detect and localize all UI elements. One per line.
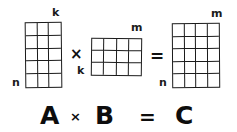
- equation-equals-operator: =: [139, 107, 155, 127]
- matrix-cell: [92, 51, 104, 63]
- matrix-b-row-dim-label: k: [77, 65, 84, 76]
- matrix-cell: [49, 23, 61, 36]
- matrix-cell: [129, 51, 141, 63]
- matrix-cell: [26, 36, 38, 49]
- matrix-cell: [208, 62, 220, 75]
- matrix-cell: [38, 74, 50, 87]
- equation-result-c: C: [175, 103, 193, 128]
- matrix-b-column-dim-label: m: [131, 22, 142, 33]
- matrix-a-column-dim-label: k: [52, 7, 59, 18]
- matrix-cell: [185, 62, 197, 75]
- matrix-cell: [38, 49, 50, 62]
- matrix-cell: [116, 51, 128, 63]
- matrix-cell: [129, 63, 141, 75]
- matrix-multiplication-diagram: k n × k m =: [0, 0, 237, 132]
- matrix-cell: [49, 48, 61, 61]
- matrix-b: [91, 38, 142, 77]
- equation-operand-b: B: [95, 103, 114, 128]
- matrix-cell: [92, 63, 104, 75]
- equation-operand-a: A: [40, 103, 59, 128]
- matrix-cell: [173, 74, 185, 87]
- matrix-cell: [196, 74, 208, 87]
- matrix-c-column-dim-label: m: [211, 8, 222, 19]
- matrix-cell: [185, 74, 197, 87]
- matrix-cell: [196, 37, 208, 50]
- matrix-cell: [196, 49, 208, 62]
- matrix-cell: [37, 23, 49, 36]
- matrix-a-row-dim-label: n: [12, 77, 20, 88]
- equation-multiply-operator: ×: [70, 110, 81, 123]
- matrix-cell: [26, 49, 38, 62]
- matrix-cell: [104, 39, 116, 51]
- matrix-cell: [184, 24, 196, 37]
- matrix-cell: [38, 61, 50, 74]
- equals-operator-top: =: [150, 48, 163, 65]
- matrix-cell: [116, 63, 128, 75]
- matrix-cell: [207, 24, 219, 37]
- matrix-cell: [207, 49, 219, 62]
- matrix-cell: [49, 61, 61, 74]
- matrix-cell: [173, 62, 185, 75]
- matrix-cell: [92, 39, 104, 51]
- matrix-c-row-dim-label: n: [159, 77, 167, 88]
- matrix-c: [172, 23, 220, 88]
- matrix-cell: [173, 24, 185, 37]
- matrix-cell: [196, 24, 208, 37]
- multiply-operator-top: ×: [70, 47, 83, 62]
- matrix-cell: [26, 23, 38, 36]
- matrix-cell: [208, 74, 220, 87]
- matrix-cell: [129, 39, 141, 51]
- matrix-cell: [104, 63, 116, 75]
- matrix-cell: [26, 74, 38, 87]
- matrix-cell: [50, 74, 62, 87]
- matrix-cell: [173, 49, 185, 62]
- matrix-cell: [207, 36, 219, 49]
- matrix-cell: [104, 51, 116, 63]
- matrix-cell: [117, 39, 129, 51]
- matrix-cell: [196, 62, 208, 75]
- matrix-cell: [26, 61, 38, 74]
- matrix-cell: [37, 36, 49, 49]
- matrix-cell: [184, 37, 196, 50]
- matrix-cell: [173, 37, 185, 50]
- matrix-cell: [49, 36, 61, 49]
- matrix-a: [25, 22, 63, 88]
- matrix-cell: [184, 49, 196, 62]
